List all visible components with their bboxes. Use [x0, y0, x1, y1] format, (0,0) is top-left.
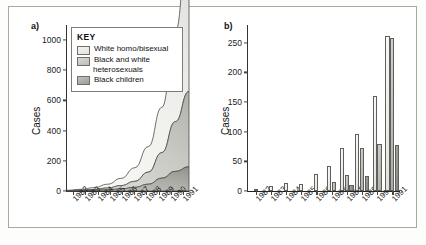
y-axis-tick-label: 0 — [237, 186, 248, 196]
legend-item-black-children: Black children — [77, 75, 176, 86]
y-axis-tick-label: 250 — [228, 38, 248, 48]
bar-group — [370, 25, 385, 191]
legend-item-label: White homo/bisexual — [94, 44, 168, 54]
bar-group — [248, 25, 263, 191]
bar — [385, 36, 389, 191]
bar — [284, 183, 288, 191]
legend-item-label: Black children — [94, 75, 144, 85]
bar-group — [354, 25, 369, 191]
y-axis-tick-label: 200 — [47, 156, 67, 166]
bar-group — [339, 25, 354, 191]
bar — [345, 175, 349, 191]
panel-a-legend: KEY White homo/bisexual Black and white … — [71, 27, 183, 92]
legend-item-white-homo-bisexual: White homo/bisexual — [77, 44, 176, 55]
bar-group — [278, 25, 293, 191]
bar — [327, 166, 331, 191]
panel-b-letter: b) — [224, 21, 233, 31]
bar — [355, 134, 359, 191]
bar — [377, 144, 381, 191]
legend-title: KEY — [77, 32, 176, 42]
y-axis-tick-label: 600 — [47, 95, 67, 105]
bar-group — [294, 25, 309, 191]
bar-group — [324, 25, 339, 191]
y-axis-tick-label: 1000 — [42, 35, 67, 45]
figure-root: a) Cases — [0, 0, 426, 245]
y-axis-tick-label: 0 — [56, 186, 67, 196]
bar — [340, 148, 344, 191]
bar — [390, 38, 394, 191]
panel-a: a) Cases — [9, 7, 214, 229]
legend-item-label: Black and white — [94, 55, 150, 65]
legend-swatch-icon — [77, 46, 90, 55]
y-axis-tick-label: 400 — [47, 126, 67, 136]
bar — [254, 189, 258, 191]
bar — [373, 96, 377, 191]
legend-item-label-continuation: heterosexuals — [93, 65, 176, 75]
bar — [395, 145, 399, 191]
bar — [360, 148, 364, 191]
bar-group — [385, 25, 400, 191]
y-axis-tick-label: 200 — [228, 67, 248, 77]
bar — [314, 174, 318, 191]
bar — [299, 184, 303, 191]
panel-a-y-axis-title: Cases — [31, 107, 42, 135]
y-axis-tick-label: 150 — [228, 97, 248, 107]
bar — [365, 176, 369, 191]
legend-swatch-icon — [77, 57, 90, 66]
bar-group — [263, 25, 278, 191]
y-axis-tick-label: 800 — [47, 65, 67, 75]
bar — [332, 182, 336, 191]
legend-item-black-white-heterosexuals: Black and white — [77, 55, 176, 66]
bar — [349, 185, 353, 191]
panel-b: b) Cases 0501001502002501982198319841985… — [214, 7, 418, 229]
panel-a-letter: a) — [31, 21, 39, 31]
y-axis-tick-label: 50 — [233, 156, 248, 166]
bar — [269, 186, 273, 191]
bar-group — [309, 25, 324, 191]
figure-frame: a) Cases — [8, 6, 417, 228]
y-axis-tick-label: 100 — [228, 127, 248, 137]
panel-b-plot-area: 0501001502002501982198319841985198619871… — [247, 25, 400, 192]
legend-swatch-icon — [77, 76, 90, 85]
